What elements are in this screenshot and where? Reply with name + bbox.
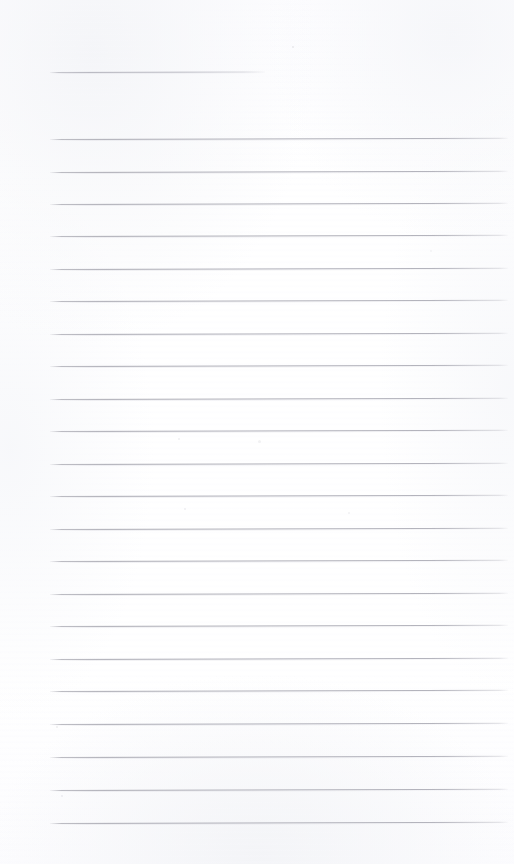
body-rule-11 xyxy=(50,463,508,465)
body-rule-1 xyxy=(50,138,508,140)
body-rule-3 xyxy=(50,203,508,205)
body-rule-5 xyxy=(50,268,508,270)
body-rule-10 xyxy=(50,430,508,432)
body-rule-17 xyxy=(50,658,508,660)
body-rule-22 xyxy=(50,822,508,824)
body-rule-14 xyxy=(50,560,508,562)
body-rule-20 xyxy=(50,756,508,758)
body-rule-6 xyxy=(50,300,508,302)
ruled-lines-layer xyxy=(0,0,514,864)
body-rule-13 xyxy=(50,528,508,530)
body-rule-12 xyxy=(50,495,508,497)
body-rule-16 xyxy=(50,625,508,627)
page-title xyxy=(50,52,265,70)
body-rule-2 xyxy=(50,171,508,173)
title-rule xyxy=(50,71,265,73)
body-rule-21 xyxy=(50,789,508,791)
body-rule-4 xyxy=(50,235,508,237)
body-rule-9 xyxy=(50,398,508,400)
body-rule-7 xyxy=(50,333,508,335)
body-rule-18 xyxy=(50,690,508,692)
body-rule-8 xyxy=(50,365,508,367)
body-rule-15 xyxy=(50,593,508,595)
body-rule-19 xyxy=(50,723,508,725)
scanned-page xyxy=(0,0,514,864)
